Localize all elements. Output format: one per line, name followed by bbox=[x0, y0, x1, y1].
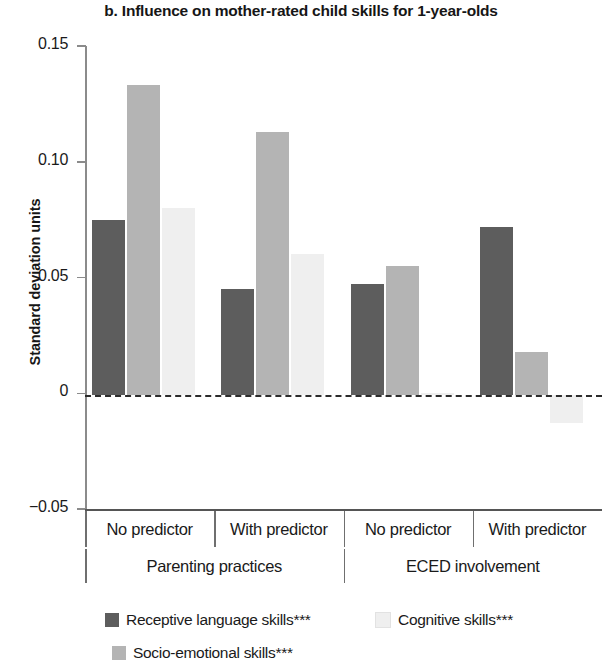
y-tick-label: −0.05 bbox=[0, 498, 68, 516]
bar-receptive-language-2 bbox=[351, 284, 384, 395]
legend-item-receptive-language: Receptive language skills*** bbox=[105, 611, 311, 629]
chart-title: b. Influence on mother-rated child skill… bbox=[0, 2, 602, 20]
legend-label-receptive-language: Receptive language skills*** bbox=[126, 611, 311, 629]
legend-swatch-socio-emotional bbox=[112, 646, 126, 660]
zero-baseline bbox=[85, 395, 602, 397]
chart-figure: b. Influence on mother-rated child skill… bbox=[0, 0, 602, 670]
legend-item-cognitive: Cognitive skills*** bbox=[375, 611, 513, 629]
category-divider bbox=[85, 511, 87, 547]
bar-socio-emotional-1 bbox=[256, 132, 289, 395]
bar-socio-emotional-3 bbox=[515, 352, 548, 395]
x-category-label-0: No predictor bbox=[85, 511, 214, 547]
x-group-label-1: ECED involvement bbox=[344, 549, 602, 583]
group-label-row: Parenting practicesECED involvement bbox=[85, 549, 602, 583]
bar-cognitive-0 bbox=[162, 208, 195, 395]
bar-receptive-language-3 bbox=[480, 227, 513, 395]
bar-receptive-language-1 bbox=[221, 289, 254, 395]
y-tick-label: 0.15 bbox=[0, 35, 68, 53]
group-divider bbox=[344, 549, 346, 583]
legend-label-socio-emotional: Socio-emotional skills*** bbox=[133, 644, 293, 662]
bar-cognitive-3 bbox=[550, 395, 583, 423]
bar-socio-emotional-0 bbox=[127, 85, 160, 395]
group-divider bbox=[85, 549, 87, 583]
x-category-label-3: With predictor bbox=[473, 511, 602, 547]
chart-legend: Receptive language skills*** Cognitive s… bbox=[0, 606, 602, 670]
legend-swatch-cognitive bbox=[375, 612, 391, 628]
x-category-label-2: No predictor bbox=[344, 511, 473, 547]
y-tick-label: 0.05 bbox=[0, 267, 68, 285]
y-tick-label: 0.10 bbox=[0, 151, 68, 169]
bar-receptive-language-0 bbox=[92, 220, 125, 395]
legend-label-cognitive: Cognitive skills*** bbox=[398, 611, 513, 629]
x-category-label-1: With predictor bbox=[214, 511, 343, 547]
y-tick-label: 0 bbox=[0, 382, 68, 400]
category-divider bbox=[214, 511, 216, 547]
x-group-label-0: Parenting practices bbox=[85, 549, 344, 583]
category-label-row: No predictorWith predictorNo predictorWi… bbox=[85, 511, 602, 547]
category-divider bbox=[473, 511, 475, 547]
legend-swatch-receptive-language bbox=[105, 613, 119, 627]
plot-area bbox=[85, 46, 602, 510]
bar-cognitive-1 bbox=[291, 254, 324, 395]
legend-item-socio-emotional: Socio-emotional skills*** bbox=[112, 644, 293, 662]
bar-socio-emotional-2 bbox=[386, 266, 419, 395]
category-divider bbox=[344, 511, 346, 547]
